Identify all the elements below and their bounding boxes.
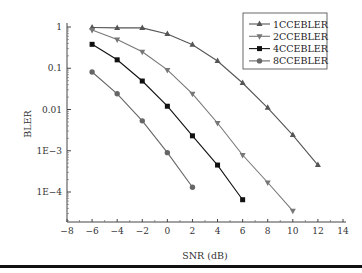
legend-label: 1CCEBLER — [273, 19, 329, 30]
legend-label: 8CCEBLER — [273, 55, 329, 66]
x-tick-label: −8 — [60, 226, 74, 236]
bler-vs-snr-chart: −8−6−4−20246810121410.10.011E−31E−4 SNR … — [0, 0, 362, 273]
x-tick-label: 8 — [265, 226, 271, 236]
x-tick-label: 0 — [164, 226, 170, 236]
x-tick-label: 4 — [215, 226, 221, 236]
y-tick-label: 0.1 — [48, 63, 62, 73]
x-tick-label: −2 — [136, 226, 149, 236]
y-axis-label: BLER — [22, 109, 33, 137]
x-tick-label: 2 — [190, 226, 196, 236]
x-tick-label: −4 — [111, 226, 125, 236]
legend: 1CCEBLER2CCEBLER4CCEBLER8CCEBLER — [243, 13, 329, 69]
x-tick-label: 6 — [240, 226, 246, 236]
y-tick-label: 1E−3 — [36, 146, 62, 156]
legend-label: 4CCEBLER — [273, 43, 329, 54]
y-tick-label: 1E−4 — [36, 187, 62, 197]
x-tick-label: 12 — [312, 226, 323, 236]
x-axis-label: SNR (dB) — [182, 250, 227, 261]
legend-label: 2CCEBLER — [273, 31, 329, 42]
x-tick-label: 10 — [287, 226, 299, 236]
x-tick-label: 14 — [337, 226, 349, 236]
series-8ccebler — [89, 69, 195, 190]
y-tick-label: 0.01 — [42, 105, 62, 115]
bottom-rule — [0, 265, 362, 268]
series-4ccebler — [90, 42, 246, 202]
y-tick-label: 1 — [56, 22, 62, 32]
x-tick-label: −6 — [85, 226, 99, 236]
